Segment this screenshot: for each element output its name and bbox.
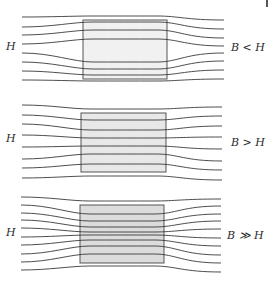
panel-b-greater-than-h [22, 105, 222, 180]
left-label-h-1: H [6, 41, 16, 53]
corner-mark [266, 0, 268, 7]
field-line [21, 266, 221, 272]
field-line [22, 176, 222, 180]
right-label-b-greater-than-h: B > H [231, 137, 265, 149]
right-label-b-less-than-h: B < H [231, 42, 265, 54]
field-line [21, 197, 221, 201]
right-label-b-much-greater-than-h: B ≫ H [227, 230, 264, 242]
material-block [81, 113, 166, 172]
panel-b-much-greater-than-h [21, 197, 221, 272]
left-label-h-2: H [6, 133, 16, 145]
material-block [83, 20, 167, 79]
field-line [22, 105, 222, 109]
panels-layer [21, 16, 224, 272]
left-label-h-3: H [6, 227, 16, 239]
field-line [22, 16, 224, 20]
panel-b-less-than-h [22, 16, 224, 81]
